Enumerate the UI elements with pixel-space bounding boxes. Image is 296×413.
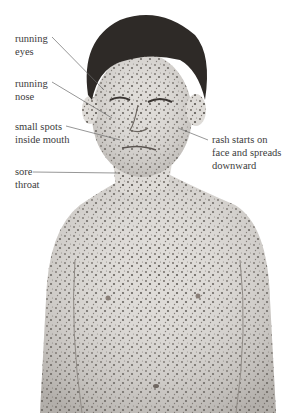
label-sore-throat: sore throat <box>15 165 40 191</box>
child-illustration <box>0 0 296 413</box>
label-running-eyes: running eyes <box>15 32 48 58</box>
label-small-spots: small spots inside mouth <box>15 120 70 146</box>
label-rash: rash starts on face and spreads downward <box>212 133 281 172</box>
label-running-nose: running nose <box>15 77 48 103</box>
